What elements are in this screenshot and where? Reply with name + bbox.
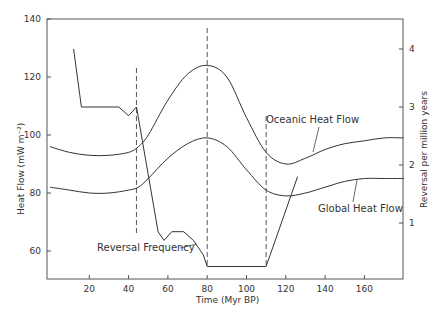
reversal-frequency-line bbox=[74, 49, 298, 267]
global-heat-flow-line bbox=[50, 138, 404, 196]
y2-tick-label: 3 bbox=[409, 102, 415, 112]
oceanic-leader bbox=[313, 127, 319, 152]
y2-axis-label: Reversal per million years bbox=[419, 91, 429, 208]
y2-tick-label: 4 bbox=[409, 44, 415, 54]
y-tick-label: 80 bbox=[30, 188, 42, 198]
vertical-markers bbox=[136, 28, 266, 268]
x-axis-ticks: 20406080100120140160 bbox=[84, 275, 374, 294]
y2-axis-ticks: 1234 bbox=[399, 44, 415, 228]
y-tick-label: 140 bbox=[24, 14, 41, 24]
y-tick-label: 60 bbox=[30, 246, 42, 256]
y-axis-label: Heat Flow (mW m⁻²) bbox=[16, 123, 26, 215]
x-tick-label: 100 bbox=[238, 284, 255, 294]
x-axis-label: Time (Myr BP) bbox=[195, 295, 259, 305]
global-label: Global Heat Flow bbox=[318, 203, 403, 214]
x-tick-label: 140 bbox=[317, 284, 334, 294]
series-lines bbox=[50, 49, 404, 267]
plot-frame bbox=[47, 19, 403, 279]
y-tick-label: 100 bbox=[24, 130, 41, 140]
oceanic-label: Oceanic Heat Flow bbox=[266, 114, 359, 125]
x-tick-label: 80 bbox=[201, 284, 213, 294]
x-tick-label: 60 bbox=[162, 284, 174, 294]
x-tick-label: 160 bbox=[356, 284, 373, 294]
y2-tick-label: 1 bbox=[409, 218, 415, 228]
plot-border bbox=[47, 19, 403, 279]
global-leader bbox=[353, 180, 357, 202]
x-tick-label: 120 bbox=[277, 284, 294, 294]
x-tick-label: 20 bbox=[84, 284, 96, 294]
y2-tick-label: 2 bbox=[409, 160, 415, 170]
y-tick-label: 120 bbox=[24, 72, 41, 82]
x-tick-label: 40 bbox=[123, 284, 135, 294]
heat-flow-chart: 20406080100120140160 6080100120140 1234 … bbox=[0, 0, 437, 313]
reversal-label: Reversal Frequency bbox=[97, 242, 195, 253]
